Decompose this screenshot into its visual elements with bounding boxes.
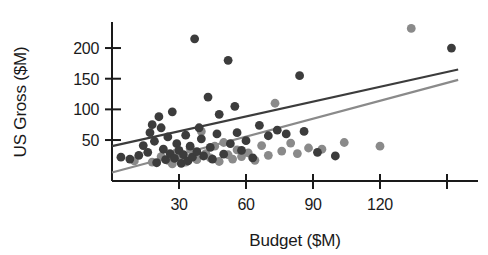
data-point [340, 138, 349, 147]
data-point [228, 155, 237, 164]
data-point [295, 71, 304, 80]
data-point [242, 136, 251, 145]
x-tick-label-90: 90 [304, 196, 322, 213]
y-axis-title: US Gross ($M) [11, 47, 30, 158]
data-point [168, 107, 177, 116]
x-axis-tick-labels: 306090120 [170, 196, 393, 213]
data-point [143, 148, 152, 157]
data-point [206, 143, 215, 152]
data-point [204, 93, 213, 102]
y-tick-label-200: 200 [73, 40, 99, 57]
data-point [230, 102, 239, 111]
x-axis-title: Budget ($M) [249, 231, 340, 250]
data-point [190, 34, 199, 43]
data-point [313, 148, 322, 157]
data-point [152, 158, 161, 167]
data-point [407, 24, 416, 33]
plot-area: 50100150200 306090120 US Gross ($M) Budg… [0, 0, 488, 255]
data-point [117, 153, 126, 162]
data-point [237, 146, 246, 155]
data-point [447, 44, 456, 53]
y-axis-tick-labels: 50100150200 [73, 40, 99, 149]
data-point [181, 131, 190, 140]
data-point [146, 128, 155, 137]
data-point [219, 150, 228, 159]
data-point [286, 139, 295, 148]
data-point [248, 153, 257, 162]
scatter-chart: 50100150200 306090120 US Gross ($M) Budg… [0, 0, 488, 255]
data-point [273, 126, 282, 135]
data-point [257, 141, 266, 150]
data-point [331, 152, 340, 161]
data-point [208, 155, 217, 164]
data-point [264, 131, 273, 140]
x-tick-label-30: 30 [170, 196, 188, 213]
data-point [376, 142, 385, 151]
data-point [163, 133, 172, 142]
data-point [199, 152, 208, 161]
data-point [300, 127, 309, 136]
y-tick-label-150: 150 [73, 71, 99, 88]
data-point [224, 56, 233, 65]
x-tick-label-60: 60 [237, 196, 255, 213]
data-point [264, 151, 273, 160]
data-point [125, 155, 134, 164]
data-point [157, 123, 166, 132]
data-point [226, 139, 235, 148]
y-tick-label-50: 50 [82, 132, 100, 149]
y-tick-label-100: 100 [73, 101, 99, 118]
data-point [293, 149, 302, 158]
data-point [213, 130, 222, 139]
data-points [117, 24, 456, 168]
data-point [304, 144, 313, 153]
data-point [195, 123, 204, 132]
data-point [134, 151, 143, 160]
x-tick-label-120: 120 [367, 196, 393, 213]
data-point [148, 120, 157, 129]
data-point [282, 130, 291, 139]
data-point [271, 99, 280, 108]
data-point [197, 134, 206, 143]
data-point [154, 112, 163, 121]
data-point [215, 110, 224, 119]
data-point [277, 147, 286, 156]
data-point [255, 121, 264, 130]
data-point [233, 128, 242, 137]
data-point [150, 137, 159, 146]
